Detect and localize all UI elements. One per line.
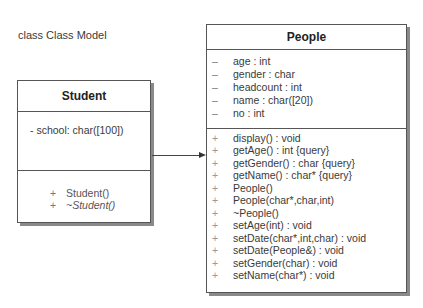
operation-text: setGender(char) : void — [233, 257, 337, 269]
class-name: People — [207, 25, 406, 50]
operation-text: Student() — [66, 187, 109, 199]
visibility-public-icon: + — [212, 144, 218, 156]
operation-text: setDate(People&) : void — [233, 244, 344, 256]
visibility-private-icon: – — [212, 94, 218, 107]
operation-text: getGender() : char {query} — [233, 157, 355, 169]
attribute-row[interactable]: –headcount : int — [207, 81, 406, 94]
operation-row[interactable]: +getName() : char* {query} — [207, 169, 406, 181]
operation-row[interactable]: +~People() — [207, 207, 406, 219]
generalization-connector[interactable] — [152, 155, 200, 156]
visibility-public-icon: + — [50, 200, 56, 212]
visibility-private-icon: – — [212, 107, 218, 120]
attribute-row[interactable]: –age : int — [207, 55, 406, 68]
operation-text: setName(char*) : void — [233, 269, 335, 281]
visibility-public-icon: + — [212, 194, 218, 206]
attribute-text: school: char([100]) — [36, 124, 123, 136]
operations-compartment: +display() : void +getAge() : int {query… — [207, 129, 406, 281]
visibility-public-icon: + — [212, 269, 218, 281]
visibility-private-icon: – — [212, 81, 218, 94]
attributes-compartment: - school: char([100]) — [18, 112, 150, 171]
attribute-text: age : int — [233, 55, 270, 67]
operation-text: ~People() — [233, 207, 279, 219]
attribute-row[interactable]: –no : int — [207, 107, 406, 120]
attribute-row[interactable]: - school: char([100]) — [18, 124, 150, 136]
operation-row[interactable]: +setAge(int) : void — [207, 219, 406, 231]
operation-text: getAge() : int {query} — [233, 144, 329, 156]
operation-row[interactable]: +People(char*,char,int) — [207, 194, 406, 206]
operation-row[interactable]: +setGender(char) : void — [207, 257, 406, 269]
operation-row[interactable]: +getGender() : char {query} — [207, 157, 406, 169]
operation-row[interactable]: +setDate(char*,int,char) : void — [207, 232, 406, 244]
attribute-row[interactable]: –name : char([20]) — [207, 94, 406, 107]
visibility-public-icon: + — [212, 232, 218, 244]
visibility-public-icon: + — [212, 257, 218, 269]
visibility-public-icon: + — [212, 132, 218, 144]
visibility-public-icon: + — [212, 182, 218, 194]
diagram-title: class Class Model — [18, 29, 107, 41]
operation-row[interactable]: + ~Student() — [18, 200, 150, 212]
visibility-public-icon: + — [212, 169, 218, 181]
operation-row[interactable]: +People() — [207, 182, 406, 194]
operation-row[interactable]: +getAge() : int {query} — [207, 144, 406, 156]
attribute-text: name : char([20]) — [233, 94, 313, 106]
visibility-public-icon: + — [212, 219, 218, 231]
operation-text: display() : void — [233, 132, 301, 144]
visibility-public-icon: + — [212, 157, 218, 169]
attribute-text: gender : char — [233, 68, 295, 80]
attribute-text: no : int — [233, 107, 265, 119]
operation-text: ~Student() — [66, 199, 115, 211]
operation-row[interactable]: +setName(char*) : void — [207, 269, 406, 281]
class-diagram-canvas: class Class Model Student - school: char… — [0, 0, 423, 308]
operation-text: setDate(char*,int,char) : void — [233, 232, 366, 244]
operation-row[interactable]: +setDate(People&) : void — [207, 244, 406, 256]
class-student[interactable]: Student - school: char([100]) + Student(… — [17, 80, 151, 223]
operation-text: People() — [233, 182, 273, 194]
visibility-public-icon: + — [212, 244, 218, 256]
visibility-public-icon: + — [50, 188, 56, 200]
attribute-row[interactable]: –gender : char — [207, 68, 406, 81]
attribute-text: headcount : int — [233, 81, 302, 93]
visibility-public-icon: + — [212, 207, 218, 219]
attributes-compartment: –age : int –gender : char –headcount : i… — [207, 50, 406, 129]
arrowhead-icon — [199, 152, 206, 158]
operation-row[interactable]: +display() : void — [207, 132, 406, 144]
visibility-private-icon: - — [30, 124, 34, 136]
visibility-private-icon: – — [212, 55, 218, 68]
operation-text: setAge(int) : void — [233, 219, 312, 231]
class-name: Student — [18, 81, 150, 112]
class-people[interactable]: People –age : int –gender : char –headco… — [206, 24, 407, 293]
operations-compartment: + Student() + ~Student() — [18, 171, 150, 211]
visibility-private-icon: – — [212, 68, 218, 81]
operation-text: getName() : char* {query} — [233, 169, 352, 181]
operation-text: People(char*,char,int) — [233, 194, 334, 206]
